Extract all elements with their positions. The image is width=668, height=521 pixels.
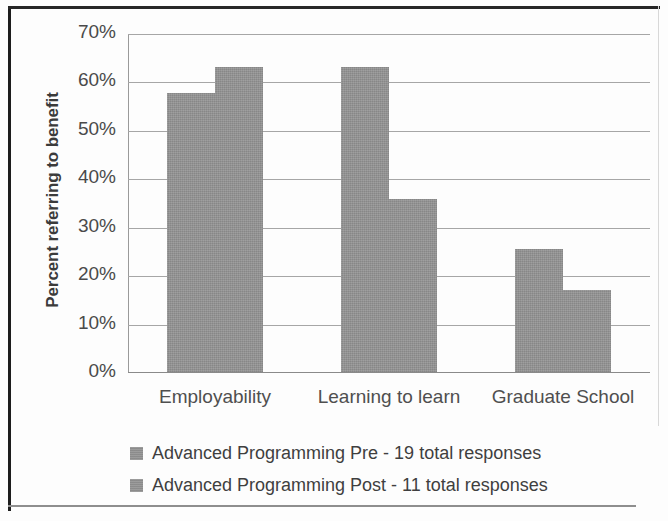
bar[interactable] bbox=[389, 199, 437, 373]
chart-figure: Percent referring to benefit 0%10%20%30%… bbox=[0, 0, 668, 521]
plot-area bbox=[128, 34, 650, 373]
x-tick-label-graduate-school: Graduate School bbox=[453, 386, 668, 408]
page-border-top bbox=[8, 6, 660, 9]
legend-label: Advanced Programming Post - 11 total res… bbox=[152, 475, 548, 496]
gridline bbox=[128, 82, 650, 83]
bar[interactable] bbox=[341, 67, 389, 373]
legend-swatch-icon bbox=[130, 447, 143, 460]
page-border-right bbox=[658, 6, 659, 426]
legend-swatch-icon bbox=[130, 479, 143, 492]
page-border-left bbox=[8, 6, 11, 511]
bar[interactable] bbox=[167, 93, 215, 373]
legend-label: Advanced Programming Pre - 19 total resp… bbox=[152, 443, 541, 464]
page-border-bottom bbox=[8, 505, 636, 507]
bar[interactable] bbox=[515, 249, 563, 373]
y-axis-title: Percent referring to benefit bbox=[43, 35, 63, 365]
gridline bbox=[128, 34, 650, 35]
legend-item[interactable]: Advanced Programming Pre - 19 total resp… bbox=[130, 437, 650, 469]
x-axis-line bbox=[128, 372, 650, 373]
legend-item[interactable]: Advanced Programming Post - 11 total res… bbox=[130, 469, 650, 501]
y-axis-line bbox=[128, 34, 129, 373]
bar[interactable] bbox=[563, 290, 611, 373]
chart-legend: Advanced Programming Pre - 19 total resp… bbox=[130, 437, 650, 501]
bar[interactable] bbox=[215, 67, 263, 373]
